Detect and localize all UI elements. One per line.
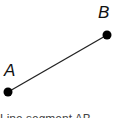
segment-diagram: [0, 0, 114, 118]
point-a: [4, 88, 13, 97]
segment-ab: [8, 35, 107, 92]
point-b: [103, 31, 112, 40]
label-a: A: [4, 62, 15, 79]
caption-partial: Line segment AB: [0, 113, 114, 118]
label-b: B: [98, 4, 109, 21]
